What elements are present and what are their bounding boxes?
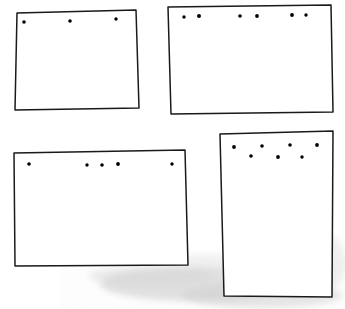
panel-bottom-right-dot-5: [288, 143, 292, 147]
panel-bottom-right[interactable]: [220, 131, 333, 297]
panel-bottom-left[interactable]: [14, 150, 188, 266]
panel-top-right-dot-1: [182, 15, 185, 18]
panel-top-right-outline: [168, 5, 333, 114]
panel-bottom-left-dot-4: [116, 162, 120, 166]
panel-bottom-right-dot-1: [232, 145, 236, 149]
panel-bottom-right-dot-6: [300, 155, 303, 158]
figure-canvas: [0, 0, 345, 309]
panel-bottom-left-outline: [14, 150, 188, 266]
panel-bottom-left-dot-1: [27, 162, 31, 166]
panel-top-right-dot-3: [238, 14, 242, 18]
panel-bottom-right-dot-3: [260, 144, 264, 148]
figure-root: [0, 0, 345, 309]
panel-top-left-dot-2: [68, 19, 72, 23]
panel-top-left-dot-1: [22, 20, 26, 24]
panel-top-left-dot-3: [114, 17, 117, 20]
panel-bottom-left-dot-5: [170, 162, 173, 165]
panel-top-right-dot-5: [290, 13, 294, 17]
panel-top-right-dot-6: [304, 13, 307, 16]
panel-top-left[interactable]: [15, 10, 139, 110]
panel-top-left-outline: [15, 10, 139, 110]
panel-bottom-right-dot-2: [249, 154, 253, 158]
panel-top-right[interactable]: [168, 5, 333, 114]
panel-bottom-right-dot-4: [276, 155, 280, 159]
panel-top-right-dot-2: [197, 14, 201, 18]
panel-bottom-left-dot-3: [100, 163, 104, 167]
panel-top-right-dot-4: [255, 14, 259, 18]
panel-bottom-left-dot-2: [85, 163, 88, 166]
panel-bottom-right-dot-7: [315, 143, 319, 147]
